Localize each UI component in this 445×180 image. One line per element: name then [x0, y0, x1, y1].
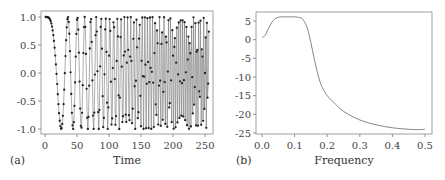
y-tick-label: 0	[245, 34, 251, 45]
plot-frame-b	[256, 12, 432, 134]
y-tick-label: -20	[235, 109, 251, 120]
x-tick-label: 200	[163, 140, 182, 151]
y-tick-label: -10	[235, 72, 251, 83]
y-tick-label: 0.5	[20, 40, 36, 51]
y-tick-label: 1.0	[20, 12, 36, 23]
y-axis-a: 1.00.50.0-0.5-1.0	[17, 12, 41, 135]
y-tick-label: -15	[235, 90, 251, 101]
y-tick-label: 0.0	[20, 68, 36, 79]
x-axis-title-a: Time	[113, 154, 141, 167]
x-tick-label: 100	[99, 140, 118, 151]
x-tick-label: 0.1	[287, 140, 303, 151]
figure: 1.00.50.0-0.5-1.0 050100150200250 (a) Ti…	[0, 0, 445, 180]
panel-label-b: (b)	[236, 154, 252, 167]
y-tick-label: 5	[245, 16, 251, 27]
panel-label-a: (a)	[10, 154, 25, 167]
x-tick-label: 0.4	[384, 140, 400, 151]
y-tick-label: -25	[235, 128, 251, 139]
x-axis-b: 0.00.10.20.30.40.5	[254, 134, 433, 151]
y-tick-label: -0.5	[17, 96, 36, 107]
spectrum-line	[262, 17, 425, 130]
y-tick-label: -5	[241, 53, 251, 64]
x-tick-label: 0.2	[319, 140, 335, 151]
x-tick-label: 0.0	[254, 140, 270, 151]
x-tick-label: 0.5	[417, 140, 433, 151]
x-tick-label: 0	[42, 140, 48, 151]
x-tick-label: 0.3	[352, 140, 368, 151]
y-tick-label: -1.0	[17, 124, 36, 135]
panel-a: 1.00.50.0-0.5-1.0 050100150200250 (a) Ti…	[10, 11, 215, 167]
y-axis-b: 50-5-10-15-20-25	[235, 16, 256, 139]
x-axis-a: 050100150200250	[42, 134, 215, 151]
x-tick-label: 50	[71, 140, 84, 151]
x-axis-title-b: Frequency	[314, 154, 374, 167]
panel-b: 50-5-10-15-20-25 0.00.10.20.30.40.5 (b) …	[235, 12, 433, 167]
x-tick-label: 150	[131, 140, 150, 151]
x-tick-label: 250	[195, 140, 214, 151]
